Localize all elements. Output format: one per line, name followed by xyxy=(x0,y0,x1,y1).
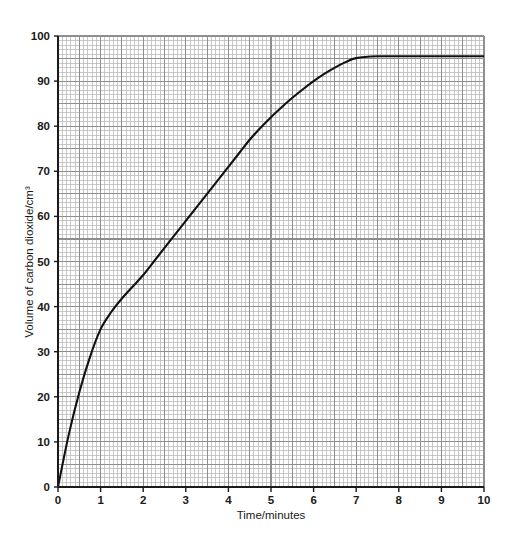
major-gridlines xyxy=(58,36,484,487)
y-tick-label: 50 xyxy=(37,256,50,268)
y-tick-label: 40 xyxy=(37,301,50,313)
y-tick-label: 80 xyxy=(37,120,50,132)
x-tick-label: 10 xyxy=(478,494,491,506)
x-tick-label: 4 xyxy=(225,494,232,506)
y-tick-label: 100 xyxy=(31,30,50,42)
y-tick-label: 90 xyxy=(37,75,50,87)
x-axis-title: Time/minutes xyxy=(237,509,306,521)
x-tick-label: 1 xyxy=(97,494,104,506)
x-tick-label: 7 xyxy=(353,494,359,506)
y-tick-label: 20 xyxy=(37,391,50,403)
x-tick-label: 0 xyxy=(55,494,61,506)
plot-area xyxy=(58,36,484,487)
y-tick-label: 60 xyxy=(37,210,50,222)
x-tick-label: 5 xyxy=(268,494,275,506)
y-tick-label: 10 xyxy=(37,436,50,448)
volume-vs-time-chart: 0102030405060708090100 012345678910 Time… xyxy=(0,0,508,540)
x-tick-label: 2 xyxy=(140,494,146,506)
x-tick-label: 3 xyxy=(183,494,189,506)
y-tick-label: 0 xyxy=(44,481,50,493)
y-axis-title: Volume of carbon dioxide/cm³ xyxy=(23,186,35,338)
graph-figure: , 0102030405060708090100 012345678910 xyxy=(0,0,508,540)
y-tick-label: 70 xyxy=(37,165,50,177)
x-tick-label: 9 xyxy=(438,494,444,506)
y-tick-label: 30 xyxy=(37,346,50,358)
x-tick-label: 6 xyxy=(310,494,316,506)
x-tick-label: 8 xyxy=(396,494,403,506)
